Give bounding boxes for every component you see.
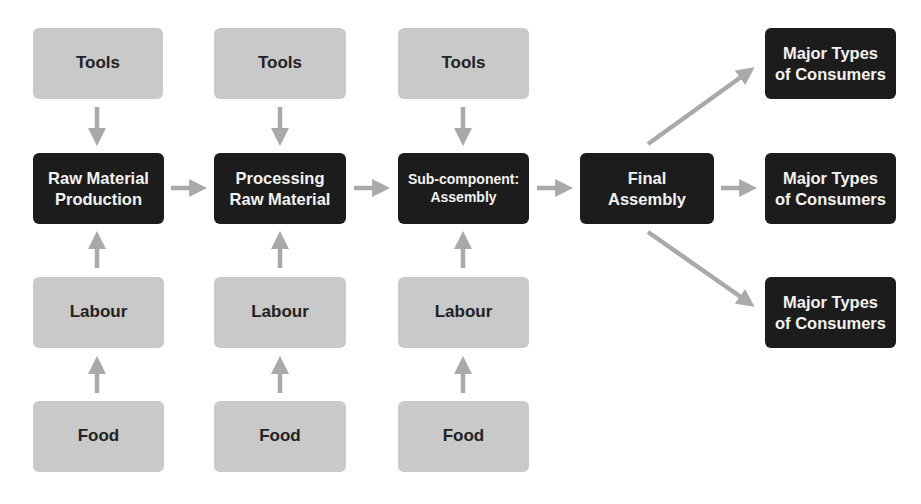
final-assembly-box: Final Assembly xyxy=(580,153,714,224)
labour-box-2: Labour xyxy=(214,277,346,348)
food-label-1: Food xyxy=(78,426,120,447)
final-assembly-label: Final Assembly xyxy=(608,168,686,208)
consumer-box-middle: Major Types of Consumers xyxy=(765,153,896,224)
stage-label-3: Sub-component: Assembly xyxy=(408,171,519,205)
labour-label-2: Labour xyxy=(251,302,309,323)
arrow-final-to-consumer-top xyxy=(648,72,748,144)
consumer-label-bottom: Major Types of Consumers xyxy=(775,292,886,332)
tools-box-3: Tools xyxy=(398,28,529,99)
stage-label-2: Processing Raw Material xyxy=(230,168,331,208)
stage-box-raw-material-production: Raw Material Production xyxy=(33,153,164,224)
labour-box-3: Labour xyxy=(398,277,529,348)
labour-box-1: Labour xyxy=(33,277,164,348)
labour-label-3: Labour xyxy=(435,302,493,323)
labour-label-1: Labour xyxy=(70,302,128,323)
food-box-1: Food xyxy=(33,401,164,472)
tools-box-1: Tools xyxy=(33,28,163,99)
tools-label-2: Tools xyxy=(258,53,302,74)
consumer-label-top: Major Types of Consumers xyxy=(775,43,886,83)
consumer-box-bottom: Major Types of Consumers xyxy=(765,277,896,348)
consumer-label-middle: Major Types of Consumers xyxy=(775,168,886,208)
food-box-2: Food xyxy=(214,401,346,472)
stage-box-processing-raw-material: Processing Raw Material xyxy=(214,153,346,224)
food-label-2: Food xyxy=(259,426,301,447)
stage-box-sub-component-assembly: Sub-component: Assembly xyxy=(398,153,529,224)
food-box-3: Food xyxy=(398,401,529,472)
tools-box-2: Tools xyxy=(214,28,346,99)
tools-label-1: Tools xyxy=(76,53,120,74)
tools-label-3: Tools xyxy=(441,53,485,74)
stage-label-1: Raw Material Production xyxy=(48,168,149,208)
consumer-box-top: Major Types of Consumers xyxy=(765,28,896,99)
arrow-final-to-consumer-bottom xyxy=(648,232,748,302)
food-label-3: Food xyxy=(443,426,485,447)
